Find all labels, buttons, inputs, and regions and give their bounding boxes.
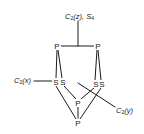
atom-labels: P P S S S S P P [52,42,106,128]
atom-p1: P [54,42,59,51]
atom-s1: S [53,78,58,87]
bond-p2-s3 [95,50,97,80]
bond-p1-s1 [56,50,57,78]
c2-y-label: C2(y) [116,106,133,115]
atom-s4: S [99,80,104,89]
atom-p2: P [95,42,100,51]
bond-p2-s4 [98,50,101,80]
c2-x-label: C2(x) [14,76,31,85]
c2-z-s4-label: C2(z), S4 [65,12,94,21]
atom-s2: S [60,78,65,87]
bond-p1-s2 [58,50,62,78]
atom-s3: S [93,80,98,89]
atom-p4: P [75,119,80,128]
molecule-diagram: P P S S S S P P C2(z), S4 C2(x) C2(y) [0,0,144,134]
bond-s4-p4 [80,88,101,119]
bond-s2-p3 [64,86,76,99]
bond-s1-p4 [56,86,76,119]
atom-p3: P [75,99,80,108]
